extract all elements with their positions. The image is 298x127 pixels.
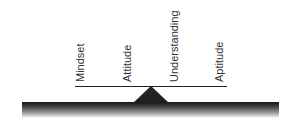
label-aptitude: Aptitude xyxy=(214,42,225,82)
ground-base xyxy=(22,102,279,118)
label-mindset: Mindset xyxy=(75,43,86,82)
label-understanding: Understanding xyxy=(169,10,180,82)
seesaw-diagram: Mindset Attitude Understanding Aptitude xyxy=(0,0,298,127)
label-attitude: Attitude xyxy=(122,45,133,82)
fulcrum-triangle-icon xyxy=(133,86,169,103)
